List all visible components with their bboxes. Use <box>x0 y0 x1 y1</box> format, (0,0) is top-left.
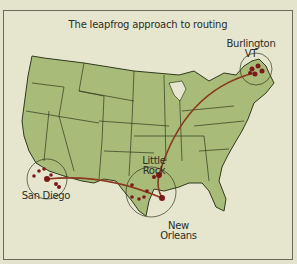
littlerock-line2: Rock <box>139 166 169 176</box>
label-san-diego: San Diego <box>16 191 76 201</box>
neworleans-line2: Orleans <box>156 231 201 241</box>
label-burlington: Burlington VT <box>226 39 276 59</box>
map-frame: The leapfrog approach to routing <box>3 10 293 260</box>
sandiego-line1: San Diego <box>16 191 76 201</box>
label-new-orleans: New Orleans <box>156 221 201 241</box>
burlington-line2: VT <box>226 49 276 59</box>
label-little-rock: Little Rock <box>139 156 169 176</box>
